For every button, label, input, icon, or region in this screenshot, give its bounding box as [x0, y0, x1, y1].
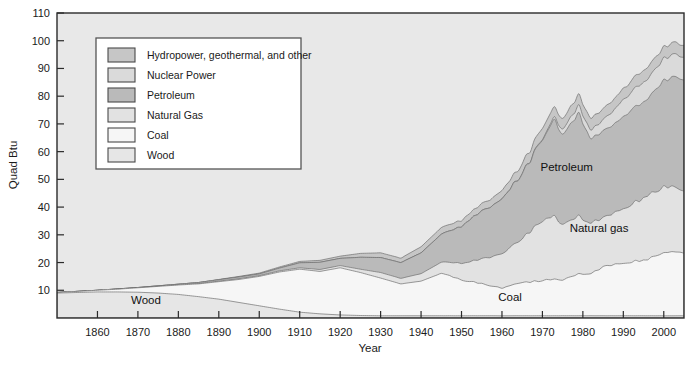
- y-tick-label: 110: [32, 7, 50, 19]
- x-tick-label: 1870: [126, 326, 150, 338]
- legend-swatch-wood: [108, 148, 135, 162]
- legend-swatch-hydropower-geothermal-and-other: [108, 48, 135, 62]
- annotation-coal: Coal: [498, 291, 522, 303]
- x-axis-tick-labels: 1860187018801890190019101920193019401950…: [85, 326, 676, 338]
- y-tick-label: 30: [38, 229, 50, 241]
- chart-legend: Hydropower, geothermal, and otherNuclear…: [96, 38, 312, 169]
- y-tick-label: 40: [38, 201, 50, 213]
- legend-label: Wood: [147, 149, 174, 161]
- x-tick-label: 1980: [571, 326, 595, 338]
- legend-swatch-petroleum: [108, 88, 135, 102]
- legend-label: Nuclear Power: [147, 69, 216, 81]
- y-tick-label: 90: [38, 62, 50, 74]
- legend-label: Coal: [147, 129, 169, 141]
- y-tick-label: 10: [38, 284, 50, 296]
- x-tick-label: 1930: [368, 326, 392, 338]
- x-tick-label: 1890: [207, 326, 231, 338]
- y-tick-label: 20: [38, 257, 50, 269]
- x-tick-label: 1960: [490, 326, 514, 338]
- legend-label: Petroleum: [147, 89, 195, 101]
- legend-label: Hydropower, geothermal, and other: [147, 49, 312, 61]
- x-tick-label: 1910: [287, 326, 311, 338]
- x-tick-label: 1990: [611, 326, 635, 338]
- legend-swatch-natural-gas: [108, 108, 135, 122]
- legend-label: Natural Gas: [147, 109, 203, 121]
- energy-consumption-stacked-area-chart: 102030405060708090100110 186018701880189…: [0, 0, 700, 365]
- x-tick-label: 1940: [409, 326, 433, 338]
- x-tick-label: 1970: [530, 326, 554, 338]
- y-tick-label: 60: [38, 146, 50, 158]
- y-tick-label: 50: [38, 173, 50, 185]
- x-tick-label: 2000: [652, 326, 676, 338]
- x-tick-label: 1920: [328, 326, 352, 338]
- annotation-wood: Wood: [131, 294, 161, 306]
- x-tick-label: 1860: [85, 326, 109, 338]
- y-tick-label: 70: [38, 118, 50, 130]
- y-axis-tick-labels: 102030405060708090100110: [32, 7, 50, 296]
- legend-swatch-coal: [108, 128, 135, 142]
- annotation-natural-gas: Natural gas: [570, 222, 629, 234]
- annotation-petroleum: Petroleum: [540, 161, 592, 173]
- x-tick-label: 1900: [247, 326, 271, 338]
- x-axis-title: Year: [358, 342, 381, 354]
- y-tick-label: 100: [32, 35, 50, 47]
- x-tick-label: 1880: [166, 326, 190, 338]
- x-tick-label: 1950: [449, 326, 473, 338]
- y-axis-title: Quad Btu: [7, 141, 19, 190]
- y-tick-label: 80: [38, 90, 50, 102]
- legend-swatch-nuclear-power: [108, 68, 135, 82]
